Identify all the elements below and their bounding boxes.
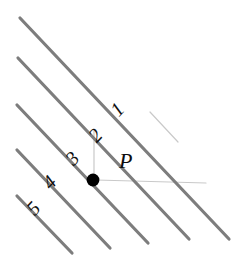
point-p-dot[interactable] [87, 174, 100, 187]
diagonal-hint-upper-right [150, 112, 178, 142]
point-label-p: P [119, 150, 132, 172]
horizontal-ray-from-p [96, 180, 206, 183]
parallel-line-group [17, 18, 229, 253]
faint-construction-lines [94, 112, 206, 183]
parallel-line-1[interactable] [20, 18, 229, 239]
diagram-svg [0, 0, 246, 273]
figure-canvas: 1 2 3 4 5 P [0, 0, 246, 273]
